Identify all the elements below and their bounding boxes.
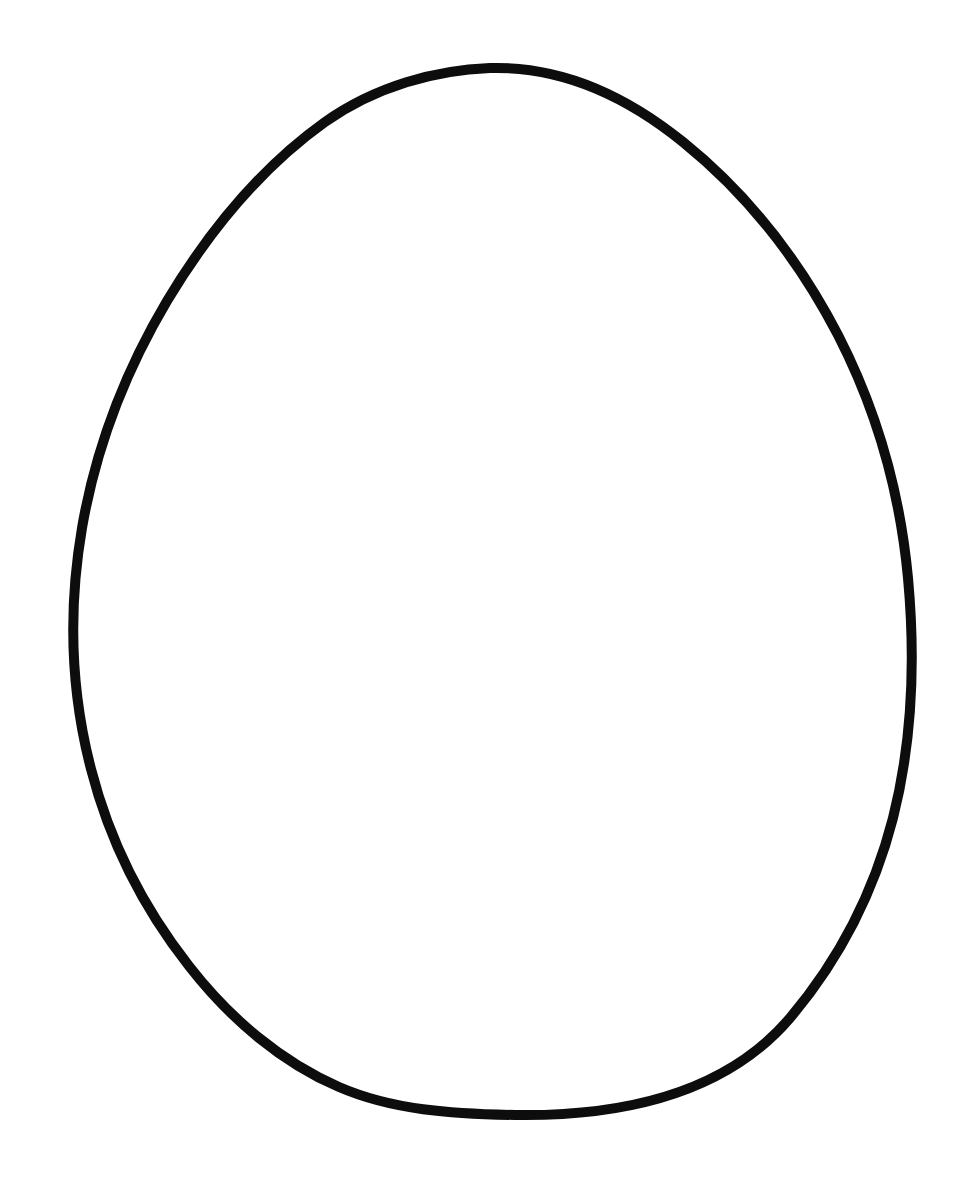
drawing-canvas: Egg Outline Template A single closed han…	[0, 0, 973, 1180]
egg-figure: Egg Outline Template	[0, 0, 973, 1180]
